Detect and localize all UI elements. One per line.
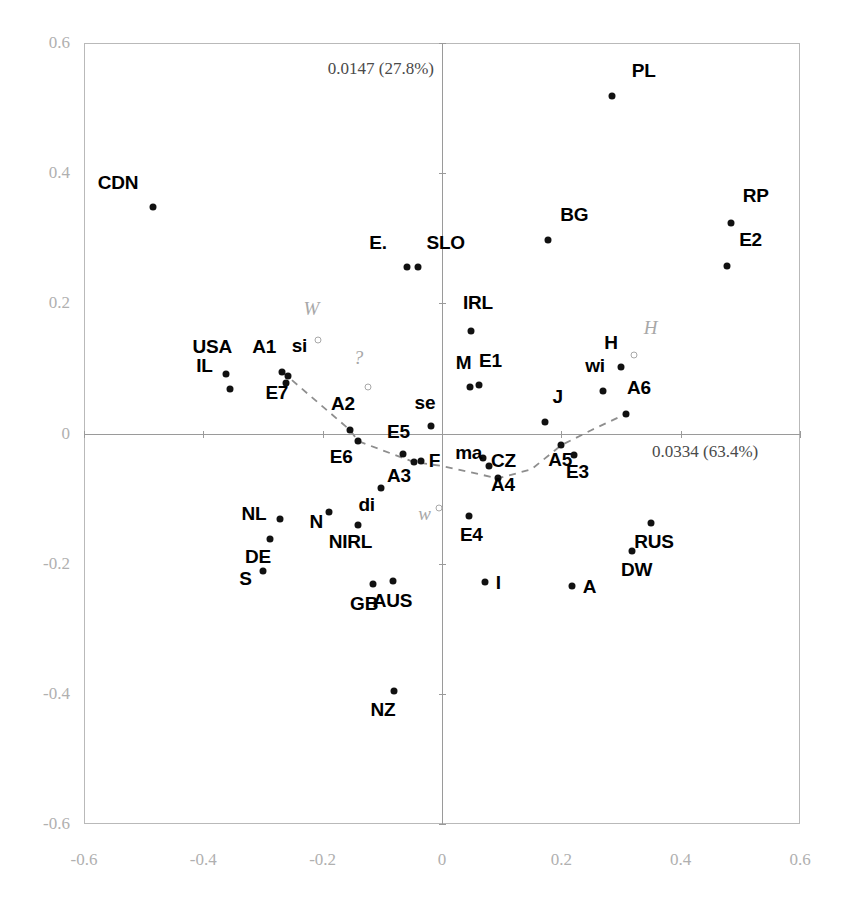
- point-label-h: H: [604, 332, 618, 354]
- point-label-bg: BG: [560, 204, 588, 226]
- data-point-e4: [466, 512, 473, 519]
- data-point-e6: [355, 438, 362, 445]
- data-point-s: [260, 568, 267, 575]
- data-point-e2: [724, 262, 731, 269]
- data-point-a: [569, 583, 576, 590]
- point-label-rus: RUS: [634, 531, 674, 553]
- x-tick-label: -0.6: [71, 850, 98, 870]
- x-tick-mark: [203, 431, 204, 438]
- point-label-ma: ma: [455, 442, 482, 464]
- point-label-nirl: NIRL: [329, 531, 373, 553]
- point-label-e: E.: [369, 232, 387, 254]
- data-point-i: [481, 578, 488, 585]
- point-label-si: si: [292, 335, 307, 357]
- data-point-wi: [600, 387, 607, 394]
- data-point-a2: [346, 426, 353, 433]
- point-label-pl: PL: [632, 60, 656, 82]
- data-point-w: [436, 505, 443, 512]
- data-point-n: [325, 508, 332, 515]
- point-label-e6: E6: [330, 446, 353, 468]
- point-label-slo: SLO: [426, 232, 464, 254]
- data-point-a6: [622, 410, 629, 417]
- data-point-aus: [390, 577, 397, 584]
- data-point-h: [618, 364, 625, 371]
- point-label-e2: E2: [739, 229, 762, 251]
- point-label-s: S: [239, 568, 251, 590]
- point-label-a1: A1: [252, 336, 276, 358]
- point-label-de: DE: [245, 546, 271, 568]
- data-point-h: [631, 352, 638, 359]
- y-tick-mark: [439, 173, 446, 174]
- x-tick-mark: [323, 431, 324, 438]
- data-point-si: [285, 372, 292, 379]
- point-label-di: di: [358, 494, 375, 516]
- point-label-aus: AUS: [373, 590, 413, 612]
- x-tick-mark: [800, 431, 801, 438]
- point-label-rp: RP: [743, 185, 769, 207]
- point-label-w: W: [304, 298, 320, 320]
- data-point-pl: [609, 93, 616, 100]
- y-tick-mark: [439, 43, 446, 44]
- y-tick-label: 0: [0, 424, 70, 444]
- y-tick-label: 0.4: [0, 163, 70, 183]
- y-tick-label: 0.2: [0, 293, 70, 313]
- point-label-e3: E3: [566, 461, 589, 483]
- point-label-i: I: [496, 572, 501, 594]
- point-label-a6: A6: [627, 377, 651, 399]
- x-tick-label: 0: [438, 850, 447, 870]
- point-label-e4: E4: [460, 524, 483, 546]
- data-point-dw: [628, 547, 635, 554]
- data-point-: [365, 384, 372, 391]
- y-tick-label: 0.6: [0, 33, 70, 53]
- data-point-il: [227, 385, 234, 392]
- point-label-nz: NZ: [370, 699, 395, 721]
- data-point-w: [315, 337, 322, 344]
- data-point-usa: [223, 370, 230, 377]
- data-point-slo: [415, 263, 422, 270]
- y-tick-mark: [439, 564, 446, 565]
- correspondence-analysis-chart: -0.6-0.4-0.200.20.40.60.60.40.20-0.2-0.4…: [0, 0, 856, 910]
- y-tick-label: -0.4: [0, 684, 70, 704]
- y-tick-label: -0.6: [0, 814, 70, 834]
- point-label-se: se: [415, 392, 436, 414]
- data-point-rp: [727, 219, 734, 226]
- data-point-gb: [369, 581, 376, 588]
- data-point-nl: [276, 516, 283, 523]
- point-label-e1: E1: [479, 350, 502, 372]
- data-point-e1: [475, 382, 482, 389]
- point-label-m: M: [456, 352, 472, 374]
- data-point-di: [377, 484, 384, 491]
- x-tick-label: 0.6: [789, 850, 810, 870]
- point-label-f: F: [429, 450, 440, 472]
- horizontal-axis-line: [84, 434, 800, 435]
- point-label-il: IL: [196, 355, 213, 377]
- x-tick-label: 0.2: [551, 850, 572, 870]
- data-point-irl: [468, 327, 475, 334]
- x-tick-mark: [84, 431, 85, 438]
- point-label-irl: IRL: [463, 292, 493, 314]
- point-label-j: J: [552, 386, 562, 408]
- point-label-cz: CZ: [491, 450, 516, 472]
- vertical-axis-inertia-label: 0.0147 (27.8%): [328, 59, 434, 79]
- point-label-wi: wi: [585, 355, 605, 377]
- y-tick-mark: [439, 824, 446, 825]
- data-point-de: [267, 535, 274, 542]
- data-point-f: [417, 458, 424, 465]
- point-label-e5: E5: [387, 421, 410, 443]
- horizontal-axis-inertia-label: 0.0334 (63.4%): [652, 442, 758, 462]
- point-label-e7: E7: [265, 382, 288, 404]
- data-point-j: [541, 418, 548, 425]
- x-tick-label: -0.2: [309, 850, 336, 870]
- data-point-e5: [399, 451, 406, 458]
- data-point-e: [404, 263, 411, 270]
- y-tick-mark: [439, 303, 446, 304]
- data-point-m: [467, 384, 474, 391]
- data-point-nirl: [355, 521, 362, 528]
- point-label-n: N: [310, 511, 324, 533]
- point-label-: ?: [354, 347, 364, 369]
- point-label-w: w: [418, 503, 431, 525]
- point-label-cdn: CDN: [98, 172, 139, 194]
- point-label-a2: A2: [331, 393, 355, 415]
- x-tick-mark: [561, 431, 562, 438]
- point-label-a: A: [583, 576, 597, 598]
